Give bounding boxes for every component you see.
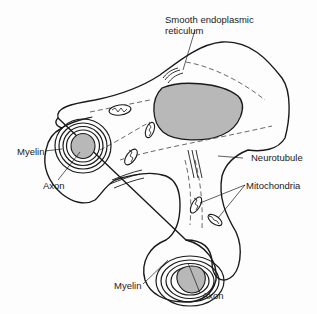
label-neurotubule: Neurotubule <box>251 152 303 163</box>
leader-neurotubule <box>218 156 243 158</box>
nucleus <box>154 83 243 140</box>
label-axon-lower: Axon <box>202 290 224 301</box>
label-smooth-er: Smooth endoplasmic reticulum <box>165 14 254 36</box>
label-myelin-upper: Myelin <box>17 146 44 157</box>
label-myelin-lower: Myelin <box>114 280 141 291</box>
label-smooth-er-line1: Smooth endoplasmic <box>165 14 254 25</box>
label-axon-upper: Axon <box>43 180 65 191</box>
label-mitochondria: Mitochondria <box>246 180 300 191</box>
leader-ser <box>183 30 195 70</box>
mitochondrion-2 <box>144 121 157 139</box>
label-smooth-er-line2: reticulum <box>165 25 254 36</box>
mitochondrion-1 <box>108 104 131 117</box>
upper-axon <box>71 134 95 159</box>
diagram-canvas: Smooth endoplasmic reticulum Neurotubule… <box>0 0 317 314</box>
